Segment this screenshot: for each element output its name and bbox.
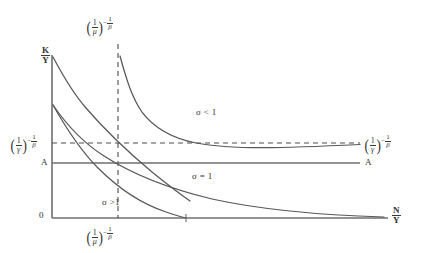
x-axis-tick-close-paren: )	[98, 229, 102, 246]
x-axis-tick-exp-denominator: β	[107, 234, 113, 241]
y-left-tick-open-paren: (	[11, 137, 15, 154]
origin-label: 0	[39, 211, 44, 220]
y-axis-label: K Y	[41, 46, 50, 65]
plot-canvas	[0, 0, 421, 253]
y-left-tick-frac-denominator: γ	[16, 146, 22, 154]
top-asymptote-open-paren: (	[87, 19, 91, 36]
y-left-tick-exp-denominator: β	[31, 142, 37, 149]
top-asymptote-exp-denominator: β	[107, 24, 113, 31]
top-asymptote-label: (1μ)−1β	[86, 16, 113, 36]
level-A-left-label: A	[41, 158, 48, 167]
x-axis-label-denominator: Y	[392, 216, 401, 225]
y-right-tick-label: (1γ)−1β	[364, 134, 391, 154]
top-asymptote-frac-denominator: μ	[92, 28, 98, 36]
level-A-right-label: A	[365, 158, 372, 167]
y-right-tick-frac-denominator: γ	[370, 146, 376, 154]
x-axis-tick-open-paren: (	[87, 229, 91, 246]
top-asymptote-close-paren: )	[98, 19, 102, 36]
curve-label-sigma-equals-1: σ = 1	[192, 172, 212, 181]
y-axis-label-denominator: Y	[41, 56, 50, 65]
y-right-tick-close-paren: )	[376, 137, 380, 154]
x-axis-tick-label: (1μ)−1β	[86, 226, 113, 246]
curve-label-sigma-less-than-1: σ < 1	[196, 108, 216, 117]
y-right-tick-exp-denominator: β	[385, 142, 391, 149]
economics-figure: K Y N Y 0 (1μ)−1β (1μ)−1β (1γ)−1β (1γ)−1…	[0, 0, 421, 253]
x-axis-label: N Y	[392, 206, 401, 225]
x-axis-tick-frac-denominator: μ	[92, 238, 98, 246]
y-left-tick-close-paren: )	[22, 137, 26, 154]
curve-sigma-less-than-1-right-branch	[120, 56, 360, 148]
y-left-tick-label: (1γ)−1β	[10, 134, 37, 154]
curve-sigma-less-than-1-left-branch	[53, 57, 190, 201]
y-right-tick-open-paren: (	[365, 137, 369, 154]
curve-label-sigma-greater-than-1: σ >1	[102, 198, 120, 207]
